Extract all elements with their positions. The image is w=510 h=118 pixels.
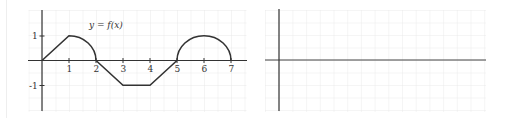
right-chart xyxy=(265,9,486,112)
x-tick-label-7: 7 xyxy=(229,64,235,74)
x-tick-label-1: 1 xyxy=(67,64,73,74)
left-chart: 1 2 3 4 5 6 7 1 -1 y = f(x) xyxy=(28,10,247,112)
x-tick-label-2: 2 xyxy=(94,64,100,74)
x-tick-label-4: 4 xyxy=(148,64,154,74)
x-tick-label-6: 6 xyxy=(202,64,208,74)
x-tick-label-5: 5 xyxy=(175,64,181,74)
y-tick-label-1: 1 xyxy=(32,31,38,41)
y-tick-label-neg1: -1 xyxy=(29,81,38,91)
charts: 1 2 3 4 5 6 7 1 -1 y = f(x) xyxy=(0,0,510,118)
x-tick-label-3: 3 xyxy=(121,64,127,74)
grid xyxy=(265,10,486,112)
function-label: y = f(x) xyxy=(88,20,123,30)
